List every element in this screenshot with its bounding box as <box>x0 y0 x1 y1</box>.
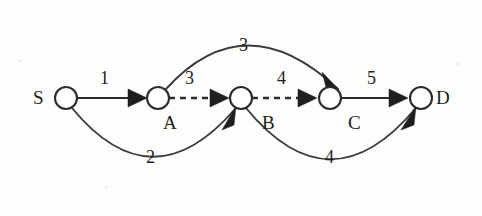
scan-speck <box>105 186 108 188</box>
graph-diagram: S A B C D 1 3 4 5 3 2 4 <box>0 0 482 216</box>
graph-canvas <box>0 0 482 216</box>
arrowhead-b-c <box>298 89 317 107</box>
node-label-c: C <box>348 113 361 132</box>
node-circle-c[interactable] <box>319 87 341 109</box>
edge-weight-b-d: 4 <box>325 148 334 166</box>
node-circle-d[interactable] <box>410 87 432 109</box>
node-label-s: S <box>33 88 44 107</box>
arrowhead-s-a <box>128 89 147 107</box>
node-circle-s[interactable] <box>55 87 77 109</box>
scan-speck <box>455 63 459 65</box>
arrowhead-c-d <box>389 89 408 107</box>
edge-weight-s-a: 1 <box>100 69 109 87</box>
edge-weight-s-b: 2 <box>146 148 155 166</box>
arrowhead-s-b <box>222 106 236 130</box>
arrowhead-b-d <box>401 106 416 130</box>
node-label-d: D <box>436 88 450 107</box>
edge-weight-a-c: 3 <box>239 36 248 54</box>
edge-weight-a-b: 3 <box>185 69 194 87</box>
node-circle-a[interactable] <box>147 87 169 109</box>
node-circle-b[interactable] <box>230 87 252 109</box>
node-label-a: A <box>163 113 177 132</box>
edge-weight-b-c: 4 <box>277 69 286 87</box>
node-label-b: B <box>262 113 275 132</box>
arrowhead-a-b <box>210 89 229 107</box>
scan-speck <box>18 60 21 62</box>
edge-weight-c-d: 5 <box>367 69 376 87</box>
